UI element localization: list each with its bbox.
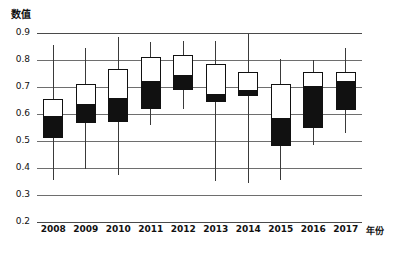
x-axis-tick-label: 2013: [199, 224, 233, 234]
box-upper-segment: [238, 72, 258, 91]
box-upper-segment: [271, 84, 291, 119]
x-axis-tick-label: 2011: [134, 224, 168, 234]
box-lower-segment: [271, 119, 291, 146]
x-axis-tick-label: 2008: [36, 224, 70, 234]
box-plot-item: [303, 33, 323, 222]
x-axis-caption: 年份: [366, 224, 384, 237]
y-axis-tick-label: 0.4: [0, 163, 30, 172]
x-axis-tick-label: 2012: [166, 224, 200, 234]
box-upper-segment: [336, 72, 356, 81]
box-lower-segment: [43, 117, 63, 139]
box-upper-segment: [206, 64, 226, 95]
box-plot-item: [76, 33, 96, 222]
box-lower-segment: [336, 82, 356, 110]
box-upper-segment: [141, 57, 161, 81]
y-axis-tick-label: 0.2: [0, 217, 30, 226]
x-axis-tick-label: 2009: [69, 224, 103, 234]
boxplot-chart: 数值 年份 0.90.80.70.60.50.40.30.22008200920…: [0, 0, 403, 258]
box-lower-segment: [141, 82, 161, 109]
box-lower-segment: [206, 95, 226, 102]
x-axis-tick-label: 2015: [264, 224, 298, 234]
box-lower-segment: [76, 105, 96, 124]
box-lower-segment: [238, 91, 258, 96]
y-axis-tick-label: 0.6: [0, 109, 30, 118]
box-lower-segment: [173, 76, 193, 90]
box-upper-segment: [173, 55, 193, 77]
y-axis-tick-label: 0.7: [0, 82, 30, 91]
x-axis-tick-label: 2014: [231, 224, 265, 234]
box-upper-segment: [76, 84, 96, 104]
box-plot-item: [238, 33, 258, 222]
box-plot-item: [173, 33, 193, 222]
whisker-line: [215, 41, 216, 181]
box-upper-segment: [108, 69, 128, 99]
gridline: [37, 222, 362, 223]
box-lower-segment: [303, 87, 323, 128]
box-plot-item: [271, 33, 291, 222]
y-axis-caption: 数值: [11, 6, 31, 21]
whisker-line: [248, 34, 249, 183]
box-plot-item: [43, 33, 63, 222]
box-plot-item: [108, 33, 128, 222]
y-axis-tick-label: 0.3: [0, 190, 30, 199]
plot-area: [37, 33, 362, 222]
box-upper-segment: [303, 72, 323, 87]
x-axis-tick-label: 2016: [296, 224, 330, 234]
x-axis-tick-label: 2010: [101, 224, 135, 234]
y-axis-tick-label: 0.9: [0, 28, 30, 37]
box-lower-segment: [108, 99, 128, 122]
y-axis-tick-label: 0.8: [0, 55, 30, 64]
x-axis-tick-label: 2017: [329, 224, 363, 234]
box-plot-item: [336, 33, 356, 222]
box-upper-segment: [43, 99, 63, 117]
box-plot-item: [141, 33, 161, 222]
box-plot-item: [206, 33, 226, 222]
y-axis-tick-label: 0.5: [0, 136, 30, 145]
